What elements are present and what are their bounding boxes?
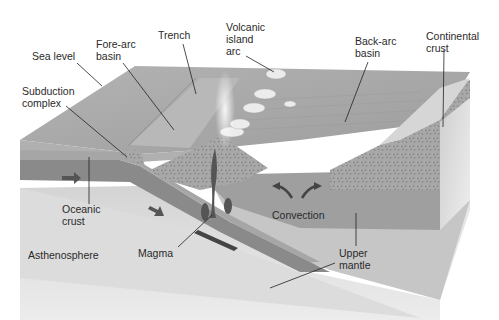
label-back-arc-basin: Back-arc basin [355, 35, 396, 59]
label-oceanic-crust: Oceanic crust [62, 203, 101, 227]
steam-plume [215, 70, 235, 150]
label-convection: Convection [272, 209, 325, 221]
label-magma: Magma [138, 247, 173, 259]
label-asthenosphere: Asthenosphere [28, 249, 99, 261]
label-subduction-complex: Subduction complex [22, 85, 75, 109]
label-continental-crust: Continental crust [426, 30, 479, 54]
label-upper-mantle: Upper mantle [339, 247, 371, 271]
label-volcanic-island-arc: Volcanic island arc [226, 21, 265, 57]
label-trench: Trench [158, 29, 190, 41]
label-fore-arc-basin: Fore-arc basin [96, 38, 136, 62]
label-sea-level: Sea level [32, 50, 75, 62]
